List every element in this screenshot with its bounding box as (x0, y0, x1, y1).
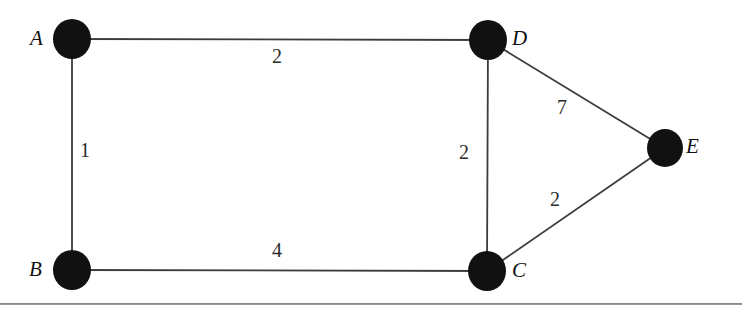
node-label-d: D (512, 28, 527, 49)
graph-node (53, 19, 91, 59)
edge-weight-label: 2 (459, 142, 469, 162)
graph-node (469, 20, 507, 60)
node-label-e: E (686, 136, 699, 157)
graph-edge (487, 40, 488, 271)
bottom-horizontal-rule (0, 303, 742, 305)
edge-weight-label: 2 (550, 189, 560, 209)
node-label-a: A (30, 28, 43, 49)
graph-edge (487, 148, 665, 271)
graph-node (53, 250, 91, 290)
graph-figure: ADEBC 212724 (0, 0, 742, 314)
edge-weight-label: 7 (557, 97, 567, 117)
node-label-c: C (512, 260, 526, 281)
graph-edge (72, 270, 487, 271)
edge-weight-label: 1 (80, 140, 90, 160)
edge-weight-label: 2 (272, 46, 282, 66)
edge-weight-label: 4 (272, 240, 282, 260)
node-layer (53, 19, 683, 291)
graph-edge (72, 39, 488, 40)
node-label-b: B (29, 259, 42, 280)
graph-node (647, 129, 683, 167)
edge-layer (72, 39, 665, 271)
graph-edge (488, 40, 665, 148)
graph-canvas (0, 0, 742, 314)
graph-node (468, 251, 506, 291)
